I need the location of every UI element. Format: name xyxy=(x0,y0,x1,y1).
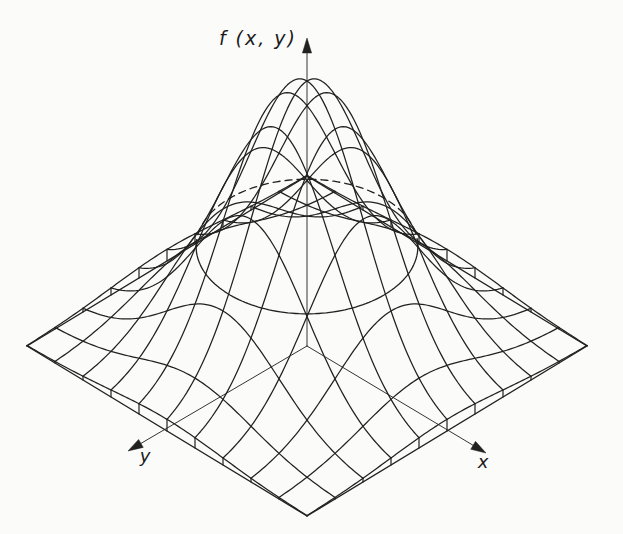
y-axis-label: y xyxy=(139,445,151,466)
wireframe-surface-svg: f (x, y) y x xyxy=(0,0,623,534)
z-axis-label: f (x, y) xyxy=(219,27,297,49)
x-axis-label: x xyxy=(477,451,489,472)
surface-plot-figure: f (x, y) y x xyxy=(0,0,623,534)
